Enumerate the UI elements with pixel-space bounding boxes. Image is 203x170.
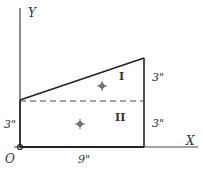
- y-axis-label: Y: [28, 6, 37, 20]
- right-upper-height-label: 3": [152, 71, 164, 84]
- region-1-label: I: [119, 70, 124, 83]
- sloped-top-edge: [20, 58, 144, 100]
- centroid-marker-region-1: [97, 81, 107, 91]
- centroid-marker-region-2: [75, 119, 85, 129]
- base-dimension-label: 9": [78, 153, 90, 166]
- x-axis-label: X: [185, 134, 195, 148]
- right-lower-height-label: 3": [152, 117, 164, 130]
- diagram-canvas: Y X O I II 9" 3" 3" 3": [0, 0, 203, 170]
- left-height-label: 3": [4, 118, 16, 131]
- origin-label: O: [5, 152, 15, 166]
- region-2-label: II: [115, 111, 125, 124]
